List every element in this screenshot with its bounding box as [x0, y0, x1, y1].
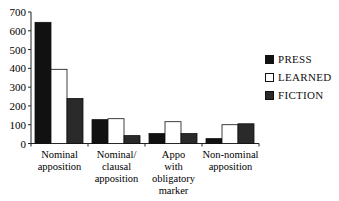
x-category-label: apposition [38, 161, 82, 172]
x-category-label: clausal [102, 161, 131, 172]
x-category-label: apposition [95, 173, 139, 184]
y-tick-label: 400 [10, 62, 27, 74]
legend-item-press: PRESS [265, 50, 331, 68]
bar-press [149, 134, 165, 144]
legend-label: LEARNED [278, 71, 331, 83]
x-category-label: obligatory [152, 173, 196, 184]
fiction-swatch-icon [265, 91, 274, 100]
press-swatch-icon [265, 55, 274, 64]
x-category-label: Nominal/ [97, 149, 137, 160]
x-category-label: Nominal [41, 149, 78, 160]
bar-learned [222, 125, 238, 144]
bar-fiction [181, 134, 197, 144]
bar-press [92, 120, 108, 144]
bar-press [206, 139, 222, 144]
bar-learned [165, 122, 181, 144]
x-category-label: marker [159, 185, 189, 196]
y-tick-label: 600 [10, 25, 27, 37]
x-category-label: apposition [209, 161, 253, 172]
y-tick-label: 0 [21, 138, 27, 150]
bars [35, 22, 254, 143]
y-tick-label: 100 [10, 119, 27, 131]
legend-label: FICTION [278, 89, 324, 101]
learned-swatch-icon [265, 73, 274, 82]
category-labels: NominalappositionNominal/clausalappositi… [38, 149, 259, 196]
x-category-label: with [164, 161, 183, 172]
bar-fiction [67, 98, 83, 143]
x-category-label: Non-nominal [203, 149, 259, 160]
bar-press [35, 22, 51, 143]
legend-label: PRESS [278, 53, 312, 65]
bar-fiction [124, 136, 140, 144]
x-category-label: Appo [162, 149, 185, 160]
bar-fiction [238, 124, 254, 144]
y-tick-label: 500 [10, 44, 27, 56]
bar-learned [108, 119, 124, 144]
legend-item-fiction: FICTION [265, 86, 331, 104]
bar-learned [51, 69, 67, 143]
legend-item-learned: LEARNED [265, 68, 331, 86]
y-tick-label: 200 [10, 100, 27, 112]
legend: PRESS LEARNED FICTION [265, 50, 331, 104]
y-tick-label: 700 [10, 6, 27, 18]
y-tick-label: 300 [10, 81, 27, 93]
